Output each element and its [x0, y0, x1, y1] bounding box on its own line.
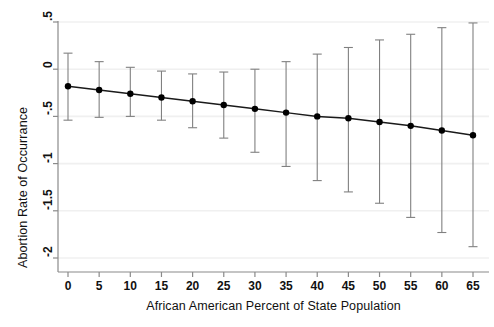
data-point [470, 132, 476, 138]
data-point [283, 109, 289, 115]
plot-canvas [0, 0, 494, 327]
data-point [252, 106, 258, 112]
gridlines [58, 22, 489, 258]
data-point [314, 113, 320, 119]
chart-screenshot: Abortion Rate of Occurrance African Amer… [0, 0, 494, 327]
data-point [96, 87, 102, 93]
axes [53, 21, 489, 277]
data-point [65, 83, 71, 89]
data-point [376, 119, 382, 125]
data-point [189, 98, 195, 104]
data-point [407, 123, 413, 129]
data-point [221, 102, 227, 108]
data-point [127, 91, 133, 97]
marginal-effects-plot: Abortion Rate of Occurrance African Amer… [0, 0, 494, 327]
data-point [345, 115, 351, 121]
data-point [439, 127, 445, 133]
data-point [158, 94, 164, 100]
error-bars [64, 23, 478, 247]
